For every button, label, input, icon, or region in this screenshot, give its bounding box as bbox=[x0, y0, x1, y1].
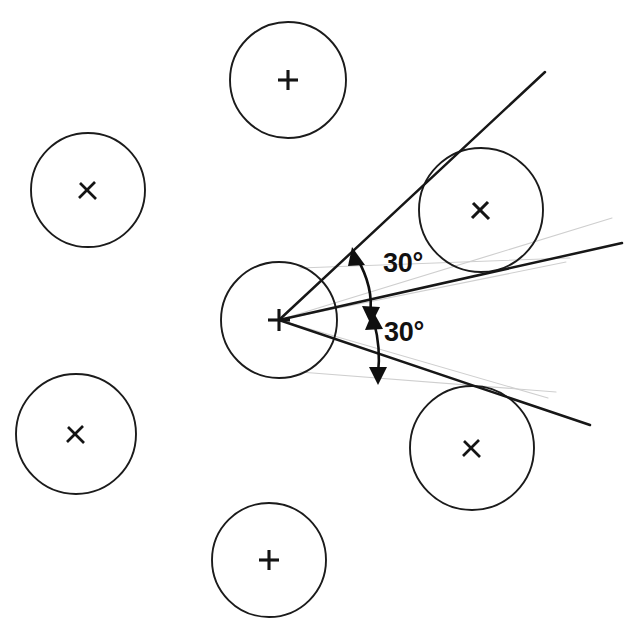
x-marker-icon bbox=[472, 202, 489, 219]
x-marker-icon bbox=[463, 440, 480, 457]
circle-top bbox=[230, 22, 346, 138]
construction-line-mid bbox=[279, 218, 612, 320]
diagram-svg: 30° 30° bbox=[0, 0, 626, 636]
circle-lower-right bbox=[410, 386, 534, 510]
ray-upper bbox=[279, 72, 545, 320]
ray-middle bbox=[279, 243, 622, 320]
construction-line-tangent-lower bbox=[300, 372, 556, 392]
x-marker-icon bbox=[79, 182, 96, 199]
arrow-head-icon bbox=[369, 367, 387, 385]
x-marker-icon bbox=[67, 426, 84, 443]
angle-label-upper: 30° bbox=[383, 248, 423, 278]
angle-label-lower: 30° bbox=[384, 317, 424, 347]
circle-upper-left bbox=[31, 133, 145, 247]
angle-arrow-upper bbox=[348, 247, 380, 325]
circle-lower-left bbox=[16, 374, 136, 494]
rays-group bbox=[279, 72, 622, 425]
circle-bottom bbox=[212, 503, 326, 617]
plus-marker-icon bbox=[278, 70, 298, 90]
ray-lower bbox=[279, 320, 590, 425]
arrow-head-icon bbox=[348, 247, 365, 266]
plus-marker-icon bbox=[259, 550, 279, 570]
circle-upper-right bbox=[419, 148, 543, 272]
geometric-diagram-canvas: 30° 30° bbox=[0, 0, 626, 636]
